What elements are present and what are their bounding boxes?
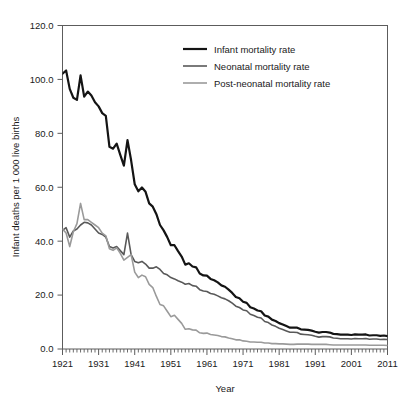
y-tick-label: 100.0 — [30, 74, 54, 85]
x-tick-label: 1941 — [124, 358, 145, 369]
y-axis-title: Infant deaths per 1 000 live births — [10, 117, 21, 258]
plot-area-border — [63, 26, 388, 350]
y-tick-label: 40.0 — [35, 236, 54, 247]
y-tick-label: 0.0 — [40, 343, 53, 354]
x-tick-label: 1971 — [232, 358, 253, 369]
y-tick-label: 120.0 — [30, 20, 54, 31]
x-tick-label: 2001 — [341, 358, 362, 369]
legend-label-3: Post-neonatal mortality rate — [214, 78, 330, 89]
legend-label-2: Neonatal mortality rate — [214, 61, 310, 72]
x-tick-label: 1931 — [88, 358, 109, 369]
x-tick-label: 2011 — [377, 358, 397, 369]
x-tick-label: 1921 — [52, 358, 73, 369]
x-tick-label: 1981 — [269, 358, 290, 369]
y-tick-label: 60.0 — [35, 182, 54, 193]
x-tick-label: 1951 — [160, 358, 181, 369]
y-axis: 120.0100.080.060.040.020.00.0 — [30, 20, 63, 355]
x-tick-label: 1991 — [305, 358, 326, 369]
y-tick-label: 80.0 — [35, 128, 54, 139]
legend-label-1: Infant mortality rate — [214, 44, 295, 55]
mortality-line-chart: 120.0100.080.060.040.020.00.0 1921193119… — [0, 0, 413, 400]
x-axis: 1921193119411951196119711981199120012011 — [52, 349, 398, 369]
y-tick-label: 20.0 — [35, 289, 54, 300]
x-tick-label: 1961 — [196, 358, 217, 369]
chart-figure: 120.0100.080.060.040.020.00.0 1921193119… — [0, 0, 413, 400]
plot-frame — [63, 26, 388, 350]
x-axis-title: Year — [215, 383, 234, 394]
